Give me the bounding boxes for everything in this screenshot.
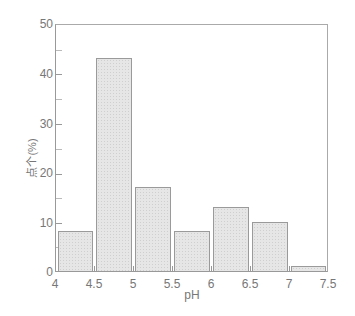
y-tick-label: 40 xyxy=(23,67,53,81)
y-minor-tick xyxy=(56,198,62,199)
x-tick-label: 6.5 xyxy=(235,277,265,291)
histogram-bar xyxy=(58,231,93,271)
histogram-bar xyxy=(213,207,249,271)
x-tick-label: 7 xyxy=(274,277,304,291)
x-tick-label: 7.5 xyxy=(313,277,343,291)
histogram-bar xyxy=(252,222,288,271)
x-tick-label: 5 xyxy=(118,277,148,291)
histogram-bar xyxy=(174,231,210,271)
histogram-bar xyxy=(291,266,326,271)
x-tick xyxy=(211,266,212,271)
x-tick xyxy=(289,266,290,271)
x-axis-title: pH xyxy=(180,288,204,302)
y-major-tick xyxy=(56,223,62,224)
histogram-chart: 点个(%) 0 10 20 30 40 50 4 4.5 5 5.5 6 6.5 xyxy=(0,0,355,316)
y-minor-tick xyxy=(56,149,62,150)
y-tick-label: 50 xyxy=(23,17,53,31)
y-major-tick xyxy=(56,124,62,125)
y-major-tick xyxy=(56,74,62,75)
y-minor-tick xyxy=(56,50,62,51)
x-tick xyxy=(172,266,173,271)
x-tick-label: 4 xyxy=(40,277,70,291)
x-tick xyxy=(250,266,251,271)
y-tick-label: 20 xyxy=(23,166,53,180)
y-minor-tick xyxy=(56,99,62,100)
histogram-bar xyxy=(96,58,132,271)
y-major-tick xyxy=(56,174,62,175)
plot-area xyxy=(55,24,328,272)
x-tick xyxy=(94,266,95,271)
y-tick-label: 10 xyxy=(23,216,53,230)
x-tick xyxy=(133,266,134,271)
y-tick-label: 30 xyxy=(23,117,53,131)
histogram-bar xyxy=(135,187,171,271)
x-tick-label: 4.5 xyxy=(79,277,109,291)
